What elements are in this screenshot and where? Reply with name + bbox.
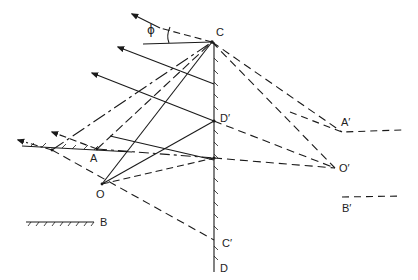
phi-arc (168, 27, 170, 43)
ray-o-c (102, 42, 212, 184)
surface-b (26, 222, 94, 226)
label-d-prime: D′ (220, 112, 230, 124)
dash-dprime-oprime (214, 121, 335, 168)
surface-b-prime (342, 196, 402, 197)
label-d: D (220, 262, 228, 274)
dash-c-aprime (212, 42, 342, 132)
label-b-prime: B′ (342, 202, 351, 214)
label-c-prime: C′ (222, 237, 232, 249)
ray-5 (18, 140, 52, 150)
label-a: A (90, 152, 98, 164)
ray-top (132, 14, 160, 28)
ray-a-c (52, 42, 212, 150)
dash-mid-oprime (214, 158, 335, 168)
label-phi: ϕ (147, 23, 155, 37)
left-surface (22, 143, 132, 152)
dash-a-mid (97, 149, 214, 158)
ray-3 (92, 73, 214, 121)
label-o-prime: O′ (339, 162, 350, 174)
label-a-prime: A′ (341, 116, 350, 128)
ray-4 (110, 136, 214, 160)
ray-2 (118, 47, 214, 84)
optics-diagram: ϕ C D′ A O C′ D A′ O′ B B′ (0, 0, 418, 280)
phi-reference-line (143, 42, 212, 44)
ray-a-c2 (97, 42, 212, 149)
dash-c-oprime (212, 42, 335, 168)
ray-o-dprime (102, 121, 214, 184)
label-b: B (100, 216, 107, 228)
label-o: O (96, 188, 105, 200)
label-c: C (216, 26, 224, 38)
